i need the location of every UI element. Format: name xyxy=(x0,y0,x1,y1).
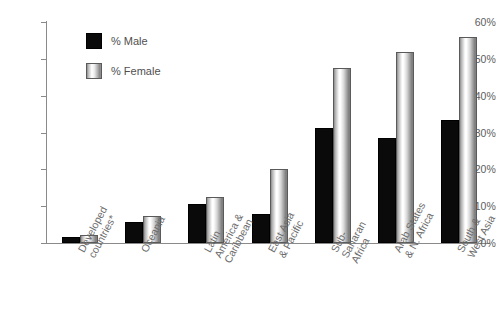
y-axis-tick xyxy=(41,243,47,244)
bar-male xyxy=(125,222,143,243)
bar-group xyxy=(188,22,224,243)
bar-group xyxy=(441,22,477,243)
bar-male xyxy=(315,128,333,243)
bar-male xyxy=(441,120,459,243)
chart-legend: % Male % Female xyxy=(86,30,161,90)
bar-group xyxy=(252,22,288,243)
bar-male xyxy=(62,237,80,243)
legend-item-male: % Male xyxy=(86,30,161,52)
bar-male xyxy=(252,214,270,243)
legend-label-female: % Female xyxy=(111,66,161,77)
bar-male xyxy=(378,138,396,243)
legend-swatch-male-icon xyxy=(86,33,102,49)
bar-group xyxy=(315,22,351,243)
legend-item-female: % Female xyxy=(86,60,161,82)
legend-label-male: % Male xyxy=(111,36,148,47)
bar-group xyxy=(378,22,414,243)
bar-male xyxy=(188,204,206,243)
legend-swatch-female-icon xyxy=(86,63,102,79)
